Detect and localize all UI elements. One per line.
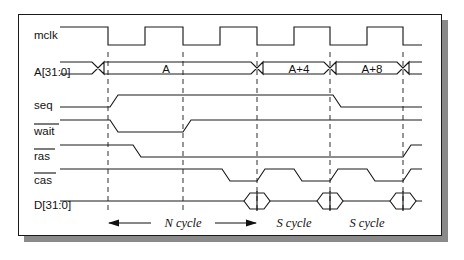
timing-diagram-figure: mclk A[31:0] seq wait ras cas D[31:0] A … — [18, 14, 442, 236]
waveform-cas — [60, 169, 422, 181]
figure-root: mclk A[31:0] seq wait ras cas D[31:0] A … — [0, 0, 464, 260]
cycle-annotations: N cycle S cycle S cycle — [108, 216, 385, 230]
guide-lines — [108, 52, 403, 210]
annotation-n-cycle: N cycle — [163, 216, 202, 230]
address-bus-value-1: A+4 — [289, 63, 310, 75]
annotation-s-cycle-2: S cycle — [349, 216, 384, 230]
waveform-address-bus: A A+4 A+8 — [60, 62, 422, 75]
address-bus-value-2: A+8 — [362, 63, 383, 75]
signal-label-wait: wait — [33, 125, 55, 137]
n-cycle-arrowhead-right — [246, 220, 257, 227]
signal-label-ras: ras — [34, 150, 50, 162]
signal-label-cas: cas — [34, 174, 52, 186]
signal-label-mclk: mclk — [34, 29, 58, 41]
waveform-canvas: mclk A[31:0] seq wait ras cas D[31:0] A … — [18, 14, 442, 236]
address-bus-value-0: A — [162, 63, 170, 75]
waveform-ras — [60, 145, 422, 157]
annotation-s-cycle-1: S cycle — [276, 216, 311, 230]
waveform-seq — [60, 95, 422, 107]
signal-label-seq: seq — [34, 99, 53, 111]
n-cycle-arrowhead-left — [108, 220, 119, 227]
waveform-wait — [60, 120, 422, 132]
waveform-data-bus — [60, 191, 422, 211]
signal-label-address: A[31:0] — [34, 66, 70, 78]
waveform-mclk — [60, 27, 422, 45]
